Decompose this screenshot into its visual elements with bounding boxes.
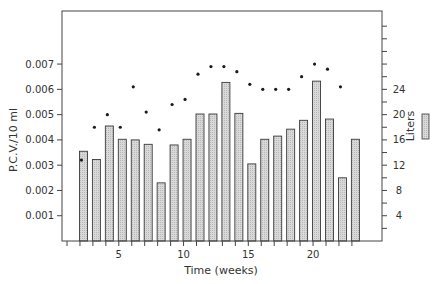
svg-text:0.006: 0.006	[25, 84, 54, 95]
right-axis-ticks: 4812162024	[382, 26, 405, 228]
y-axis-label: P.C.V./10 ml	[7, 108, 20, 172]
pcv-dot-week-3	[93, 126, 96, 129]
pcv-dot-week-9	[171, 103, 174, 106]
bar-week-18	[287, 129, 295, 241]
left-axis-ticks: 0.0010.0020.0030.0040.0050.0060.007	[25, 59, 62, 222]
x-axis-label: Time (weeks)	[183, 264, 258, 277]
pcv-dot-week-18	[287, 88, 290, 91]
svg-text:5: 5	[116, 249, 122, 260]
bar-week-3	[92, 159, 100, 241]
pcv-dot-week-12	[209, 65, 212, 68]
bar-week-14	[235, 113, 243, 241]
svg-text:12: 12	[393, 160, 406, 171]
svg-text:4: 4	[396, 210, 402, 221]
pcv-dot-week-6	[132, 85, 135, 88]
pcv-dot-week-5	[119, 126, 122, 129]
pcv-dot-week-8	[158, 128, 161, 131]
bar-week-21	[326, 119, 334, 241]
svg-text:0.007: 0.007	[25, 59, 54, 70]
bar-week-22	[338, 178, 346, 241]
pcv-dot-week-4	[106, 113, 109, 116]
svg-text:20: 20	[307, 249, 320, 260]
pcv-dot-week-14	[235, 70, 238, 73]
svg-text:0.002: 0.002	[25, 185, 54, 196]
bar-week-16	[261, 139, 269, 241]
bar-week-20	[313, 81, 321, 241]
bar-week-7	[144, 144, 152, 241]
pcv-dot-week-19	[300, 75, 303, 78]
liters-bars	[79, 81, 359, 241]
bar-week-13	[222, 82, 230, 241]
svg-text:24: 24	[393, 84, 406, 95]
pcv-dot-week-10	[183, 98, 186, 101]
svg-text:0.003: 0.003	[25, 160, 54, 171]
svg-text:15: 15	[242, 249, 255, 260]
y2-axis-label: Liters	[404, 110, 417, 141]
legend-swatch-liters	[422, 114, 429, 139]
pcv-dot-week-7	[145, 110, 148, 113]
bar-week-10	[183, 139, 191, 241]
x-axis-ticks: 5101520	[67, 241, 352, 260]
bar-week-5	[118, 139, 126, 241]
bar-week-11	[196, 114, 204, 241]
pcv-dot-week-11	[196, 73, 199, 76]
bar-week-9	[170, 145, 178, 241]
pcv-dot-week-17	[274, 88, 277, 91]
bar-week-15	[248, 164, 256, 241]
svg-text:0.004: 0.004	[25, 134, 54, 145]
bar-week-8	[157, 183, 165, 241]
pcv-dot-week-2	[80, 159, 83, 162]
svg-text:0.005: 0.005	[25, 109, 54, 120]
pcv-dot-week-13	[222, 65, 225, 68]
pcv-dot-week-21	[326, 68, 329, 71]
svg-text:8: 8	[396, 185, 402, 196]
bar-week-12	[209, 114, 217, 241]
chart: 0.0010.0020.0030.0040.0050.0060.007 4812…	[0, 0, 439, 284]
pcv-dot-week-20	[313, 62, 316, 65]
bar-week-17	[274, 136, 282, 241]
bar-week-19	[300, 120, 308, 241]
bar-week-23	[351, 139, 359, 241]
svg-text:10: 10	[177, 249, 190, 260]
svg-text:0.001: 0.001	[25, 210, 54, 221]
bar-week-6	[131, 140, 139, 241]
bar-week-4	[105, 126, 113, 241]
pcv-dot-week-22	[339, 85, 342, 88]
bar-week-2	[79, 151, 87, 241]
pcv-dot-week-16	[261, 88, 264, 91]
pcv-dot-week-15	[248, 83, 251, 86]
